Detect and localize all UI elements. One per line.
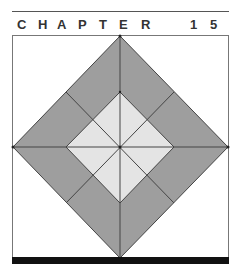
vertex-dot bbox=[119, 35, 122, 38]
vertex-dot bbox=[227, 146, 230, 149]
bottom-bar bbox=[12, 257, 229, 264]
center-dot bbox=[119, 146, 122, 149]
vertex-dot bbox=[119, 91, 121, 93]
diamond-pattern-figure bbox=[0, 0, 241, 276]
vertex-dot bbox=[12, 146, 15, 149]
